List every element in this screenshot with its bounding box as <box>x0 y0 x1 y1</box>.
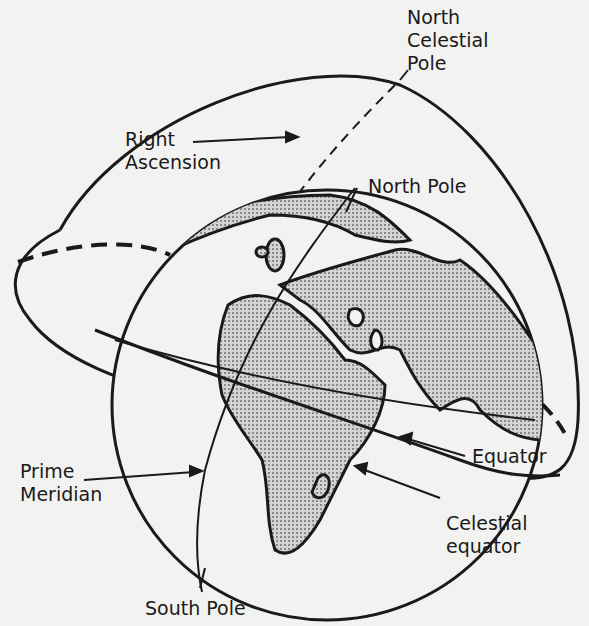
label-prime-meridian: Prime Meridian <box>20 460 102 506</box>
label-north-pole: North Pole <box>368 175 467 198</box>
label-south-pole: South Pole <box>145 597 246 620</box>
label-equator: Equator <box>472 445 547 468</box>
celestial-equator-back <box>18 245 170 262</box>
label-north-celestial-pole: North Celestial Pole <box>407 6 488 75</box>
label-right-ascension: Right Ascension <box>125 128 221 174</box>
label-celestial-equator: Celestial equator <box>446 512 527 558</box>
